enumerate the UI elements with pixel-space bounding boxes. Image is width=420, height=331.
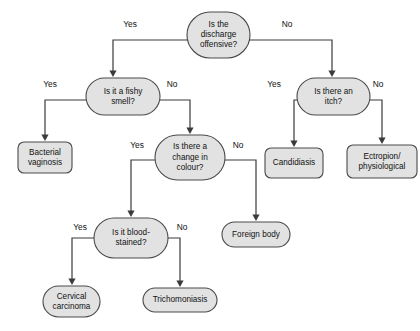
flow-edge (160, 100, 194, 134)
edge-label-yes: Yes (130, 140, 144, 150)
arrowhead-icon (41, 135, 48, 141)
node-label: stained? (116, 238, 147, 247)
flow-node-t-ectropion[interactable]: Ectropion/physiological (347, 145, 417, 178)
arrowhead-icon (109, 71, 116, 77)
node-label: discharge (201, 30, 237, 39)
node-label: Is it blood- (112, 228, 150, 237)
edge-line (370, 100, 382, 139)
arrowhead-icon (328, 71, 335, 77)
flow-edge (250, 40, 336, 77)
node-label: Bacterial (29, 148, 61, 157)
node-label: carcinoma (53, 302, 91, 311)
node-label: physiological (359, 162, 406, 171)
edge-line (250, 40, 332, 72)
edge-label-yes: Yes (73, 222, 87, 232)
node-label: Ectropion/ (364, 152, 402, 161)
arrowhead-icon (176, 281, 183, 287)
edge-label-no: No (177, 222, 188, 232)
edge-line (113, 40, 187, 72)
edge-label-no: No (167, 79, 178, 89)
node-label: Is there a (173, 142, 208, 151)
node-label: Cervical (57, 292, 87, 301)
flow-node-t-candidiasis[interactable]: Candidiasis (265, 148, 323, 178)
arrowhead-icon (68, 279, 75, 285)
node-label: Is there an (314, 87, 353, 96)
edge-line (294, 100, 297, 142)
node-label: vaginosis (28, 158, 62, 167)
flow-edge (168, 238, 184, 287)
flowchart-canvas: Is thedischargeoffensive?Is it a fishysm… (0, 0, 420, 331)
node-label: Is it a fishy (104, 87, 144, 96)
flow-node-t-bacterial[interactable]: Bacterialvaginosis (18, 142, 72, 173)
flow-node-t-cervical[interactable]: Cervicalcarcinoma (43, 286, 100, 317)
node-label: offensive? (200, 40, 238, 49)
flow-node-q-itch[interactable]: Is there anitch? (297, 78, 370, 115)
edge-line (160, 100, 190, 129)
flow-edge (370, 100, 386, 144)
flow-edge (290, 100, 297, 147)
edge-label-yes: Yes (267, 79, 281, 89)
flow-edge (127, 160, 155, 217)
arrowhead-icon (378, 138, 385, 144)
flow-node-q-offensive[interactable]: Is thedischargeoffensive? (187, 12, 250, 58)
edge-label-yes: Yes (43, 79, 57, 89)
node-label: Is the (208, 20, 228, 29)
flow-node-t-trichomoniasis[interactable]: Trichomoniasis (143, 288, 217, 312)
flow-node-q-blood[interactable]: Is it blood-stained? (94, 218, 168, 258)
arrowhead-icon (252, 215, 259, 221)
flow-edge (41, 100, 86, 141)
edge-label-no: No (233, 140, 244, 150)
node-label: itch? (325, 97, 343, 106)
node-label: smell? (111, 97, 135, 106)
edge-line (168, 238, 180, 282)
flow-edge (225, 160, 260, 221)
flow-node-q-fishy[interactable]: Is it a fishysmell? (86, 78, 160, 115)
flowchart-diagram: Is thedischargeoffensive?Is it a fishysm… (0, 0, 420, 331)
flow-edge (68, 238, 94, 285)
flow-edge (109, 40, 187, 77)
node-label: Candidiasis (273, 158, 315, 167)
edge-line (45, 100, 86, 136)
node-label: change in (172, 153, 208, 162)
nodes-layer: Is thedischargeoffensive?Is it a fishysm… (18, 12, 417, 317)
edge-line (225, 160, 256, 216)
node-label: Trichomoniasis (153, 295, 208, 304)
edge-line (131, 160, 155, 212)
edge-label-no: No (373, 79, 384, 89)
node-label: colour? (177, 163, 204, 172)
arrowhead-icon (290, 141, 297, 147)
edge-label-yes: Yes (123, 19, 137, 29)
flow-node-t-foreign[interactable]: Foreign body (222, 222, 290, 247)
edge-label-no: No (282, 19, 293, 29)
node-label: Foreign body (232, 230, 281, 239)
arrowhead-icon (127, 211, 134, 217)
edge-line (72, 238, 94, 280)
arrowhead-icon (186, 128, 193, 134)
flow-node-q-colour[interactable]: Is there achange incolour? (155, 135, 225, 180)
